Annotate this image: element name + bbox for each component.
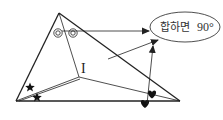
bisector-right bbox=[79, 77, 180, 101]
double-circle-inner bbox=[71, 31, 75, 35]
double-circle-icon bbox=[54, 29, 62, 37]
incenter-angle-diagram: I 합하면 90° bbox=[0, 0, 223, 120]
sum-callout: 합하면 90° bbox=[150, 12, 220, 42]
heart-icon bbox=[148, 91, 156, 99]
double-circle-icon bbox=[69, 29, 77, 37]
side-ab bbox=[16, 13, 59, 101]
arrow-star-to-ellipse bbox=[108, 40, 158, 59]
double-circle-inner bbox=[56, 31, 60, 35]
angle-bisectors bbox=[16, 13, 180, 101]
incenter-label: I bbox=[81, 61, 86, 76]
star-icon bbox=[25, 83, 35, 92]
callout-korean: 합하면 bbox=[160, 20, 190, 34]
callout-text: 합하면 90° bbox=[160, 17, 214, 34]
triangle bbox=[16, 13, 180, 101]
bisector-apex bbox=[59, 13, 79, 77]
callout-value: 90° bbox=[197, 20, 214, 34]
